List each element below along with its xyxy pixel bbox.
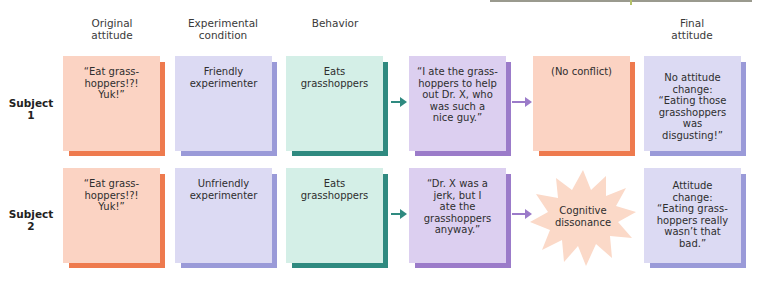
box-text-line: hoppers!?! bbox=[67, 78, 156, 90]
box-shadow bbox=[69, 263, 165, 268]
subject1-final-attitude-box: No attitude change: “Eating those grassh… bbox=[644, 56, 741, 151]
box-text-line: experimenter bbox=[179, 190, 268, 202]
box-shadow bbox=[69, 151, 165, 156]
column-label-line: Experimental bbox=[168, 17, 278, 29]
box-shadow bbox=[506, 174, 511, 268]
box-shadow bbox=[741, 62, 746, 156]
box-text-line: dissonance bbox=[538, 217, 628, 229]
box-shadow bbox=[181, 263, 277, 268]
row-label-subject-2: Subject 2 bbox=[6, 208, 56, 232]
column-label-line: attitude bbox=[637, 29, 747, 41]
rule-tick bbox=[630, 0, 632, 5]
box-shadow bbox=[181, 151, 277, 156]
box-text-line: grasshoppers bbox=[413, 213, 502, 225]
arrow-right-icon bbox=[391, 209, 407, 219]
box-text-line: Cognitive bbox=[538, 205, 628, 217]
box-text-line: grasshoppers bbox=[290, 78, 379, 90]
subject1-original-attitude-box: “Eat grass- hoppers!?! Yuk!” bbox=[63, 56, 160, 151]
box-shadow bbox=[415, 263, 511, 268]
box-text-line: Unfriendly bbox=[179, 178, 268, 190]
subject1-behavior-box: Eats grasshoppers bbox=[286, 56, 383, 151]
box-shadow bbox=[292, 263, 388, 268]
box-shadow bbox=[160, 174, 165, 268]
column-label-original-attitude: Original attitude bbox=[57, 17, 167, 41]
column-label-behavior: Behavior bbox=[280, 17, 390, 29]
column-label-line: Final bbox=[637, 17, 747, 29]
subject2-condition-box: Unfriendly experimenter bbox=[175, 168, 272, 263]
box-shadow bbox=[650, 151, 746, 156]
box-text-line: “Eating grass- bbox=[648, 203, 737, 215]
subject1-condition-box: Friendly experimenter bbox=[175, 56, 272, 151]
column-label-line: Original bbox=[57, 17, 167, 29]
box-text-line: (No conflict) bbox=[537, 66, 626, 78]
box-text-line: grasshoppers was bbox=[648, 107, 737, 130]
box-shadow bbox=[650, 263, 746, 268]
box-shadow bbox=[160, 62, 165, 156]
arrow-right-icon bbox=[391, 97, 407, 107]
box-text-line: hoppers really bbox=[648, 215, 737, 227]
subject2-behavior-box: Eats grasshoppers bbox=[286, 168, 383, 263]
subject1-justification-box: “I ate the grass- hoppers to help out Dr… bbox=[409, 56, 506, 151]
box-text-line: jerk, but I bbox=[413, 190, 502, 202]
box-shadow bbox=[272, 174, 277, 268]
subject2-justification-box: “Dr. X was a jerk, but I ate the grassho… bbox=[409, 168, 506, 263]
box-shadow bbox=[415, 151, 511, 156]
arrow-right-icon bbox=[512, 97, 532, 107]
column-label-experimental-condition: Experimental condition bbox=[168, 17, 278, 41]
box-text-line: wasn’t that bbox=[648, 226, 737, 238]
subject2-final-attitude-box: Attitude change: “Eating grass- hoppers … bbox=[644, 168, 741, 263]
cropped-top-rule bbox=[490, 0, 752, 2]
column-label-line: attitude bbox=[57, 29, 167, 41]
box-shadow bbox=[539, 151, 635, 156]
box-text-line: was such a bbox=[413, 101, 502, 113]
box-text-line: “Dr. X was a bbox=[413, 178, 502, 190]
row-label-line: 1 bbox=[6, 109, 56, 121]
box-shadow bbox=[383, 62, 388, 156]
box-text-line: anyway.” bbox=[413, 224, 502, 236]
box-text-line: ate the bbox=[413, 201, 502, 213]
box-text-line: bad.” bbox=[648, 238, 737, 250]
box-text-line: change: bbox=[648, 84, 737, 96]
box-text-line: “I ate the grass- bbox=[413, 66, 502, 78]
box-text-line: disgusting!” bbox=[648, 130, 737, 142]
row-label-line: Subject bbox=[6, 97, 56, 109]
box-text-line: “Eat grass- bbox=[67, 66, 156, 78]
box-text-line: grasshoppers bbox=[290, 190, 379, 202]
box-text-line: hoppers!?! bbox=[67, 190, 156, 202]
box-text-line: out Dr. X, who bbox=[413, 89, 502, 101]
column-label-final-attitude: Final attitude bbox=[637, 17, 747, 41]
box-shadow bbox=[272, 62, 277, 156]
box-text-line: Attitude bbox=[648, 180, 737, 192]
box-text-line: Yuk!” bbox=[67, 201, 156, 213]
box-text-line: Friendly bbox=[179, 66, 268, 78]
box-text-line: hoppers to help bbox=[413, 78, 502, 90]
dissonance-label: Cognitive dissonance bbox=[538, 205, 628, 228]
row-label-line: Subject bbox=[6, 208, 56, 220]
box-text-line: Eats bbox=[290, 178, 379, 190]
column-label-line: Behavior bbox=[280, 17, 390, 29]
box-text-line: No attitude bbox=[648, 72, 737, 84]
box-shadow bbox=[292, 151, 388, 156]
row-label-subject-1: Subject 1 bbox=[6, 97, 56, 121]
box-text-line: “Eating those bbox=[648, 95, 737, 107]
box-text-line: nice guy.” bbox=[413, 112, 502, 124]
box-shadow bbox=[383, 174, 388, 268]
box-shadow bbox=[506, 62, 511, 156]
box-text-line: Yuk!” bbox=[67, 89, 156, 101]
box-text-line: change: bbox=[648, 192, 737, 204]
row-label-line: 2 bbox=[6, 220, 56, 232]
box-text-line: experimenter bbox=[179, 78, 268, 90]
box-text-line: Eats bbox=[290, 66, 379, 78]
box-text-line: “Eat grass- bbox=[67, 178, 156, 190]
box-shadow bbox=[741, 174, 746, 268]
column-label-line: condition bbox=[168, 29, 278, 41]
box-shadow bbox=[630, 62, 635, 156]
subject2-original-attitude-box: “Eat grass- hoppers!?! Yuk!” bbox=[63, 168, 160, 263]
subject1-conflict-box: (No conflict) bbox=[533, 56, 630, 151]
